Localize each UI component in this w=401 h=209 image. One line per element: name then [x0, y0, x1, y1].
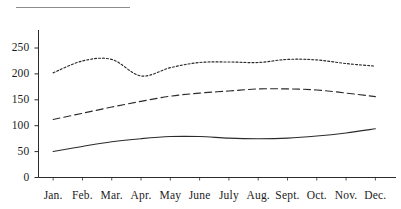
y-axis-tick-label: 50 — [0, 146, 30, 158]
y-axis-ticks — [35, 48, 39, 178]
x-axis-tick-label: Mar. — [97, 190, 126, 202]
x-axis-tick-label: Dec. — [361, 190, 390, 202]
y-axis-tick-label: 200 — [0, 68, 30, 80]
x-axis-tick-label: June — [185, 190, 214, 202]
series-line-lower-series — [53, 129, 375, 152]
x-axis-tick-label: Nov. — [331, 190, 360, 202]
x-axis-tick-label: May — [156, 190, 185, 202]
x-axis-tick-label: Oct. — [302, 190, 331, 202]
x-axis-tick-label: Feb. — [68, 190, 97, 202]
series-line-upper-series — [53, 58, 375, 76]
chart-plot-area — [0, 0, 401, 209]
x-axis-tick-label: Sept. — [273, 190, 302, 202]
x-axis-tick-label: July — [214, 190, 243, 202]
data-series-layer — [53, 58, 375, 151]
y-axis-tick-label: 250 — [0, 42, 30, 54]
x-axis-tick-label: Aug. — [244, 190, 273, 202]
x-axis-tick-label: Jan. — [39, 190, 68, 202]
x-axis-tick-label: Apr. — [126, 190, 155, 202]
chart-figure: 050100150200250 Jan.Feb.Mar.Apr.MayJuneJ… — [0, 0, 401, 209]
y-axis-tick-label: 0 — [0, 172, 30, 184]
y-axis-tick-label: 100 — [0, 120, 30, 132]
series-line-middle-series — [53, 89, 375, 120]
y-axis-tick-label: 150 — [0, 94, 30, 106]
